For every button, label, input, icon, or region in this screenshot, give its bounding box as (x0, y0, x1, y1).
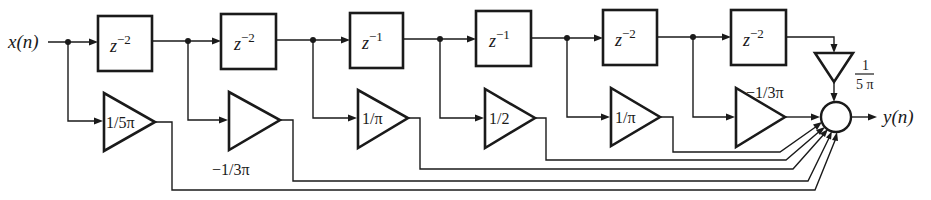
delay-block-6: z−2 (731, 10, 786, 65)
svg-text:−1/3π: −1/3π (746, 84, 784, 101)
fir-filter-diagram: x(n) z−2 z−2 z−1 (0, 0, 931, 200)
input-label: x(n) (7, 31, 39, 53)
svg-text:1/π: 1/π (362, 110, 383, 127)
summer-node (821, 102, 851, 132)
delay-block-4: z−1 (476, 11, 531, 66)
svg-text:1: 1 (862, 58, 869, 73)
delay-line (48, 34, 838, 54)
gain-1-pi-b: 1/π (611, 88, 660, 146)
svg-text:5 π: 5 π (856, 77, 874, 92)
gain-1-2: 1/2 (485, 89, 535, 148)
svg-text:1/π: 1/π (615, 109, 636, 126)
gain-1-pi-a: 1/π (358, 90, 408, 148)
svg-text:1/2: 1/2 (489, 110, 509, 127)
delay-block-3: z−1 (350, 13, 403, 68)
gain-1-5pi-top: 1 5 π (815, 53, 874, 92)
gain-neg-1-3pi-b: −1/3π (736, 84, 785, 147)
delay-block-1: z−2 (98, 16, 152, 71)
svg-text:−1/3π: −1/3π (212, 161, 250, 178)
delay-block-2: z−2 (221, 14, 276, 69)
delay-block-5: z−2 (603, 10, 657, 65)
output-label: y(n) (881, 106, 914, 128)
gain-neg-1-3pi-a: −1/3π (212, 92, 280, 178)
svg-text:1/5π: 1/5π (106, 114, 135, 131)
gain-1-5pi: 1/5π (104, 93, 155, 151)
